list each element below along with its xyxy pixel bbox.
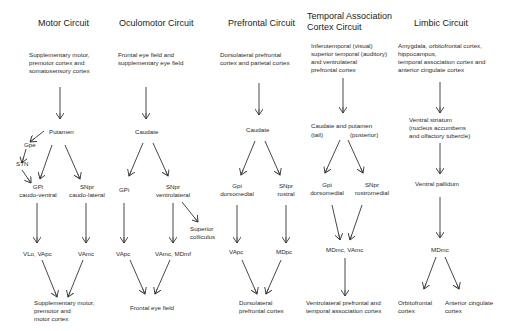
temporal-gpi-label: Gpi dorsomedial (305, 181, 349, 197)
motor-thalamus-right-label: VAmc (78, 250, 94, 258)
oculomotor-gpi-label: GPi (119, 186, 129, 194)
prefrontal-striatum-label: Caudate (246, 126, 269, 134)
temporal-snpr-label: SNpr rostromedial (349, 181, 395, 197)
limbic-target-right-label: Anterior cingulate cortex (445, 299, 493, 315)
motor-circuit-title: Motor Circuit (38, 18, 89, 29)
motor-gpe-label: Gpe (24, 141, 36, 149)
oculomotor-colliculus-label: Superior colliculus (190, 225, 215, 241)
temporal-striatum-label: Caudate and putamen (311, 122, 372, 130)
prefrontal-snpr-label: SNpr rostral (266, 182, 306, 198)
motor-gpi-label: GPi caudo-ventral (13, 183, 63, 199)
oculomotor-thalamus-right-label: VAmc, MDmf (155, 250, 191, 258)
motor-stn-label: STN (16, 160, 28, 168)
limbic-pallidum-label: Ventral pallidum (415, 180, 459, 188)
motor-snpr-label: SNpr caudo-lateral (62, 183, 112, 199)
oculomotor-circuit-title: Oculomotor Circuit (119, 18, 194, 29)
prefrontal-target-label: Dorsolateral prefrontal cortex (239, 299, 284, 315)
limbic-thalamus-label: MDmc (431, 246, 449, 254)
temporal-circuit-title: Temporal Association Cortex Circuit (307, 11, 392, 33)
oculomotor-target-label: Frontal eye field (130, 304, 174, 312)
prefrontal-source-label: Dorsolateral prefrontal cortex and parie… (220, 51, 289, 67)
prefrontal-thalamus-right-label: MDpc (276, 248, 292, 256)
temporal-striatum-right-label: (posterior) (350, 131, 378, 139)
temporal-striatum-left-label: (tail) (311, 131, 323, 139)
motor-target-label: Supplementary motor, premotor and motor … (34, 299, 95, 323)
motor-striatum-label: Putamen (49, 128, 74, 136)
motor-thalamus-left-label: VLo, VApc (23, 250, 52, 258)
limbic-target-left-label: Orbitofrontal cortex (398, 299, 432, 315)
prefrontal-circuit-title: Prefrontal Circuit (228, 18, 295, 29)
limbic-source-label: Amygdala, orbitofrontal cortex, hippocam… (398, 42, 485, 74)
oculomotor-striatum-label: Caudate (135, 128, 158, 136)
prefrontal-thalamus-left-label: VApc (229, 248, 243, 256)
temporal-source-label: Inferotemporal (visual) superior tempora… (311, 42, 387, 74)
motor-source-label: Supplementary motor, premotor cortex and… (29, 51, 90, 75)
prefrontal-gpi-label: Gpi dorsomedial (215, 182, 259, 198)
oculomotor-source-label: Frontal eye field and supplementary eye … (118, 51, 183, 67)
limbic-striatum-label: Ventral striatum (nucleus accumbens and … (409, 116, 470, 140)
temporal-thalamus-label: MDmc, VAmc (326, 246, 363, 254)
oculomotor-snpr-label: SNpr ventrolateral (150, 183, 196, 199)
temporal-target-label: Ventrolateral prefrontal and temporal as… (306, 299, 381, 315)
limbic-circuit-title: Limbic Circuit (414, 18, 468, 29)
oculomotor-thalamus-left-label: VApc (116, 250, 130, 258)
